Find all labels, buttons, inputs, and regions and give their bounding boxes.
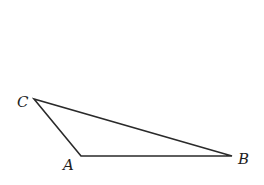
vertex-label-a: A [61, 156, 74, 174]
triangle-diagram: C A B [0, 0, 264, 185]
triangle-abc [34, 99, 232, 156]
vertex-label-c: C [17, 93, 29, 111]
vertex-label-b: B [237, 150, 249, 168]
